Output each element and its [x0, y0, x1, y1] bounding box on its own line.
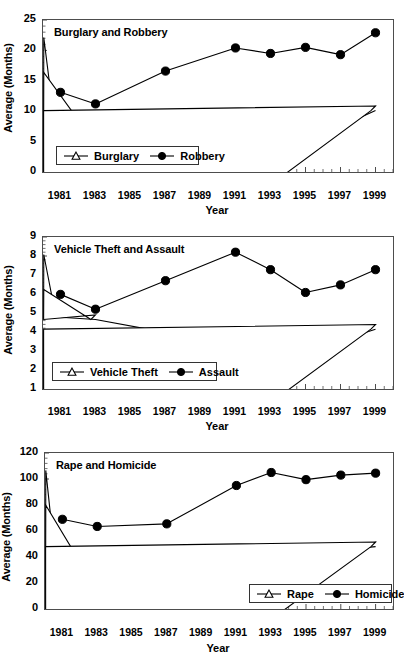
x-tick-label: 1981	[41, 406, 79, 417]
y-tick-label: 9	[16, 230, 36, 241]
y-tick-label: 80	[8, 498, 38, 509]
x-tick-label: 1997	[321, 406, 359, 417]
filled-circle-marker-icon	[324, 588, 350, 600]
x-tick-label: 1993	[251, 190, 289, 201]
y-tick-label: 7	[16, 268, 36, 279]
chart-title: Burglary and Robbery	[54, 26, 168, 38]
x-tick-label: 1981	[41, 190, 79, 201]
x-tick-label: 1983	[76, 190, 114, 201]
x-axis-label: Year	[44, 642, 392, 654]
y-tick-label: 20	[10, 43, 36, 54]
x-tick-label: 1993	[251, 406, 289, 417]
x-tick-label: 1995	[286, 627, 324, 638]
x-tick-label: 1989	[182, 627, 220, 638]
legend-label: Vehicle Theft	[87, 366, 158, 378]
y-tick-label: 100	[8, 472, 38, 483]
x-tick-label: 1991	[216, 190, 254, 201]
y-tick-label: 6	[16, 287, 36, 298]
legend-label: Rape	[284, 588, 314, 600]
x-tick-label: 1987	[146, 190, 184, 201]
y-tick-label: 10	[10, 104, 36, 115]
chart-2: Average (Months)123456789Vehicle Theft a…	[0, 222, 404, 440]
y-tick-label: 2	[16, 363, 36, 374]
x-tick-label: 1997	[321, 627, 359, 638]
legend-label: Homicide	[352, 588, 404, 600]
y-tick-label: 25	[10, 13, 36, 24]
x-tick-label: 1999	[356, 190, 394, 201]
x-axis-label: Year	[42, 420, 392, 432]
legend-label: Robbery	[177, 150, 225, 162]
x-tick-label: 1997	[321, 190, 359, 201]
filled-circle-marker-icon	[149, 150, 175, 162]
x-tick-label: 1985	[111, 190, 149, 201]
open-triangle-marker-icon	[63, 150, 89, 162]
x-tick-label: 1981	[42, 627, 80, 638]
filled-circle-marker-icon	[168, 366, 194, 378]
x-tick-label: 1985	[112, 627, 150, 638]
legend: Vehicle Theft Assault	[52, 362, 217, 381]
x-tick-label: 1987	[147, 627, 185, 638]
y-tick-label: 20	[8, 576, 38, 587]
y-tick-label: 1	[16, 382, 36, 393]
y-tick-label: 120	[8, 446, 38, 457]
y-tick-label: 15	[10, 74, 36, 85]
y-tick-label: 5	[16, 306, 36, 317]
y-tick-label: 0	[10, 165, 36, 176]
x-tick-label: 1991	[216, 406, 254, 417]
y-tick-label: 40	[8, 550, 38, 561]
x-tick-label: 1999	[356, 406, 394, 417]
chart-panel-rape-homicide: Average (Months)020406080100120Rape and …	[0, 440, 404, 665]
y-axis-label: Average (Months)	[0, 462, 14, 612]
x-tick-label: 1995	[286, 406, 324, 417]
y-tick-label: 5	[10, 135, 36, 146]
x-tick-label: 1993	[251, 627, 289, 638]
legend-item[interactable]: Robbery	[149, 150, 225, 162]
chart-panel-burglary-robbery: Average (Months)0510152025Burglary and R…	[0, 0, 404, 222]
y-tick-label: 4	[16, 325, 36, 336]
x-tick-label: 1985	[111, 406, 149, 417]
x-tick-label: 1989	[181, 406, 219, 417]
legend-item[interactable]: Homicide	[324, 588, 404, 600]
open-triangle-marker-icon	[59, 366, 85, 378]
y-tick-label: 0	[8, 602, 38, 613]
y-tick-label: 3	[16, 344, 36, 355]
legend: Burglary Robbery	[56, 146, 199, 165]
open-triangle-marker-icon	[256, 588, 282, 600]
y-tick-label: 8	[16, 249, 36, 260]
figure-root: Average (Months)0510152025Burglary and R…	[0, 0, 404, 665]
legend-item[interactable]: Assault	[168, 366, 239, 378]
x-tick-label: 1991	[216, 627, 254, 638]
x-tick-label: 1995	[286, 190, 324, 201]
legend-label: Burglary	[91, 150, 139, 162]
chart-title: Rape and Homicide	[56, 459, 156, 471]
x-axis-label: Year	[42, 204, 392, 216]
chart-3: Average (Months)020406080100120Rape and …	[0, 440, 404, 665]
legend-item[interactable]: Burglary	[63, 150, 139, 162]
legend-item[interactable]: Rape	[256, 588, 314, 600]
legend-item[interactable]: Vehicle Theft	[59, 366, 158, 378]
legend-label: Assault	[196, 366, 239, 378]
x-tick-label: 1987	[146, 406, 184, 417]
chart-1: Average (Months)0510152025Burglary and R…	[0, 0, 404, 222]
y-tick-label: 60	[8, 524, 38, 535]
x-tick-label: 1989	[181, 190, 219, 201]
x-tick-label: 1999	[356, 627, 394, 638]
chart-panel-vehicle-theft-assault: Average (Months)123456789Vehicle Theft a…	[0, 222, 404, 440]
y-axis-label: Average (Months)	[2, 235, 16, 385]
chart-title: Vehicle Theft and Assault	[54, 243, 184, 255]
x-tick-label: 1983	[76, 406, 114, 417]
legend: Rape Homicide	[249, 584, 392, 603]
x-tick-label: 1983	[77, 627, 115, 638]
